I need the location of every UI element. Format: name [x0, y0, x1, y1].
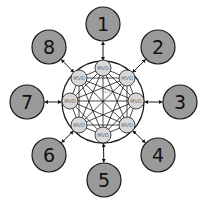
- outer-node-5: 5: [87, 163, 121, 197]
- outer-node-label: 2: [152, 36, 164, 58]
- outer-node-3: 3: [163, 85, 197, 119]
- outer-node-7: 7: [10, 85, 44, 119]
- center-label: LDN: [102, 88, 113, 94]
- mvd-label: MVD: [73, 122, 85, 128]
- bidirectional-arrow: [134, 132, 144, 142]
- mvd-label: MVD: [97, 132, 109, 138]
- mvd-node: MVD: [95, 60, 111, 76]
- mvd-node: MVD: [119, 70, 135, 86]
- outer-node-1: 1: [86, 7, 120, 41]
- outer-node-label: 3: [174, 91, 186, 113]
- bidirectional-arrow: [63, 132, 73, 142]
- mvd-node: MVD: [71, 70, 87, 86]
- mvd-node: MVD: [119, 117, 135, 133]
- mvd-label: MVD: [130, 98, 142, 104]
- network-diagram: LDN MVDMVDMVDMVDMVDMVDMVDMVD 12345678: [0, 0, 206, 207]
- outer-node-label: 1: [97, 13, 109, 35]
- mvd-label: MVD: [121, 122, 133, 128]
- mvd-label: MVD: [121, 75, 133, 81]
- outer-node-label: 8: [43, 36, 55, 58]
- bidirectional-arrow: [133, 60, 144, 71]
- outer-node-8: 8: [32, 30, 66, 64]
- mvd-label: MVD: [73, 75, 85, 81]
- outer-node-label: 4: [152, 144, 164, 166]
- outer-node-label: 5: [98, 169, 110, 191]
- mvd-label: MVD: [64, 98, 76, 104]
- mvd-node: MVD: [128, 93, 144, 109]
- outer-node-6: 6: [32, 138, 66, 172]
- outer-node-label: 6: [43, 144, 55, 166]
- mvd-node: MVD: [95, 127, 111, 143]
- mvd-label: MVD: [97, 65, 109, 71]
- bidirectional-arrow: [62, 61, 73, 72]
- mvd-node: MVD: [62, 93, 78, 109]
- outer-node-label: 7: [21, 91, 33, 113]
- outer-node-2: 2: [141, 30, 175, 64]
- mvd-node: MVD: [71, 117, 87, 133]
- outer-node-4: 4: [141, 138, 175, 172]
